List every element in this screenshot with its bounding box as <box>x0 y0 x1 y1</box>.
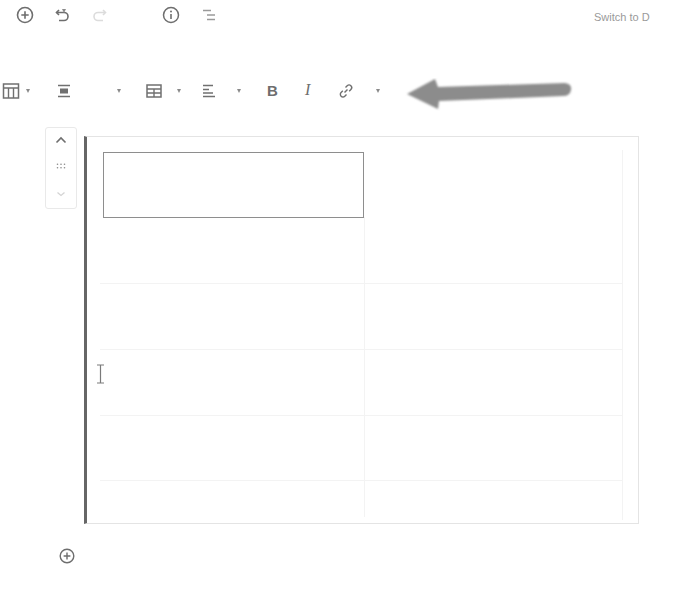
append-block-button[interactable] <box>57 546 77 566</box>
align-center-icon <box>55 82 73 100</box>
bold-button[interactable]: B <box>267 82 278 99</box>
redo-button[interactable] <box>88 4 110 26</box>
table-grid-line <box>100 480 622 481</box>
plus-circle-icon <box>59 548 75 564</box>
outline-button[interactable] <box>198 4 220 26</box>
block-type-button[interactable] <box>2 80 40 102</box>
table-grid-line <box>364 217 365 517</box>
move-down-button[interactable] <box>52 186 70 202</box>
alignment-button[interactable] <box>55 80 95 102</box>
block-mover <box>45 127 77 209</box>
italic-button[interactable]: I <box>305 81 310 99</box>
table-edit-icon <box>145 82 163 100</box>
drag-handle[interactable] <box>52 158 70 174</box>
info-icon <box>162 6 180 24</box>
more-rich-text-button[interactable] <box>372 80 386 102</box>
chevron-down-icon <box>117 89 121 93</box>
table-grid-line <box>100 283 622 284</box>
link-icon <box>337 82 355 100</box>
column-alignment-button[interactable] <box>200 80 240 102</box>
undo-button[interactable] <box>52 4 74 26</box>
redo-icon <box>90 6 108 24</box>
switch-editor-link[interactable]: Switch to D <box>594 11 650 23</box>
chevron-down-icon <box>177 89 181 93</box>
table-grid-line <box>100 415 622 416</box>
chevron-down-icon <box>376 89 380 93</box>
chevron-up-icon <box>55 136 67 144</box>
plus-circle-icon <box>16 6 34 24</box>
table-cell-selected[interactable] <box>103 152 364 218</box>
chevron-down-icon <box>237 89 241 93</box>
text-cursor-icon <box>96 364 105 384</box>
table-icon <box>2 82 20 100</box>
table-grid-line <box>100 349 622 350</box>
table-grid-line <box>622 150 623 520</box>
chevron-down-icon <box>62 9 66 13</box>
drag-handle-icon <box>56 163 66 169</box>
details-button[interactable] <box>160 4 182 26</box>
add-block-button[interactable] <box>14 4 36 26</box>
move-up-button[interactable] <box>52 132 70 148</box>
chevron-down-icon <box>56 191 66 197</box>
chevron-down-icon <box>26 89 30 93</box>
list-outline-icon <box>200 6 218 24</box>
annotation-arrow-icon <box>405 78 575 114</box>
align-left-icon <box>200 82 218 100</box>
link-button[interactable] <box>335 80 357 102</box>
